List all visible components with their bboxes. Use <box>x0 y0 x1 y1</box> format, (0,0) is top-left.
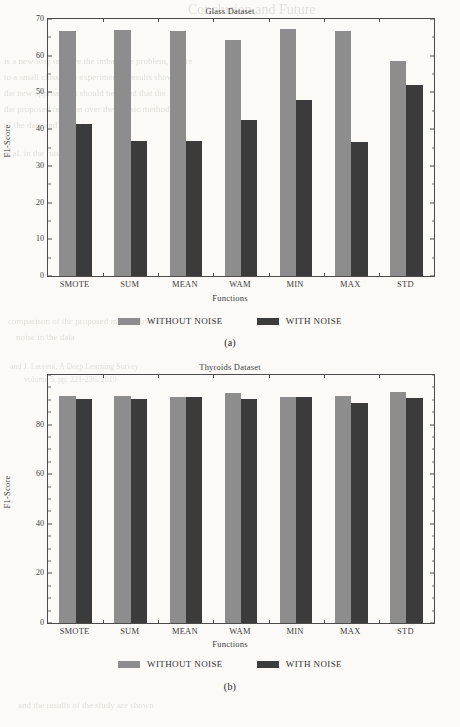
x-tick-label: WAM <box>229 626 250 636</box>
y-tick-mark <box>48 19 52 20</box>
x-tick-mark <box>103 375 104 378</box>
figure-caption-a: (a) <box>0 337 460 348</box>
y-tick-mark-minor <box>48 548 51 549</box>
x-tick-mark <box>269 19 270 22</box>
y-tick-mark-minor <box>48 220 51 221</box>
bar <box>390 392 406 623</box>
bar <box>170 397 186 623</box>
y-tick-mark <box>48 474 52 475</box>
y-tick-label: 40 <box>36 124 44 133</box>
y-tick-mark-minor <box>48 184 51 185</box>
y-tick-mark-minor <box>48 461 51 462</box>
bar <box>76 124 92 276</box>
y-tick-mark-minor <box>48 536 51 537</box>
y-tick-mark <box>430 474 434 475</box>
bar <box>296 100 312 276</box>
y-tick-mark-minor <box>432 610 435 611</box>
bar <box>225 393 241 623</box>
x-tick-label: MEAN <box>172 279 198 289</box>
bar <box>390 61 406 276</box>
bar <box>335 396 351 623</box>
bar <box>335 31 351 276</box>
y-tick-mark-minor <box>432 147 435 148</box>
x-tick-label: STD <box>397 279 414 289</box>
y-tick-mark-minor <box>432 548 435 549</box>
x-tick-mark <box>269 273 270 276</box>
y-tick-mark-minor <box>432 486 435 487</box>
x-tick-label: SMOTE <box>60 626 90 636</box>
bleed-text: and the results of the study are shown <box>18 700 154 710</box>
y-axis-label-a: F1-Score <box>2 125 12 158</box>
plot-area-a: F1-Score 010203040506070 SMOTESUMMEANWAM… <box>0 18 460 280</box>
y-tick-mark-minor <box>48 486 51 487</box>
legend-label-with-noise-a: WITH NOISE <box>286 316 342 326</box>
y-tick-mark <box>48 623 52 624</box>
figure-glass-dataset: Glass Dataset F1-Score 010203040506070 S… <box>0 6 460 348</box>
bar <box>59 31 75 276</box>
y-tick-mark-minor <box>432 257 435 258</box>
bar <box>225 40 241 276</box>
legend-entry-with-noise-a: WITH NOISE <box>257 316 342 326</box>
y-tick-mark-minor <box>48 598 51 599</box>
y-tick-mark-minor <box>48 412 51 413</box>
y-tick-mark <box>430 19 434 20</box>
bar <box>280 29 296 276</box>
y-tick-mark-minor <box>432 375 435 376</box>
legend-a: WITHOUT NOISE WITH NOISE <box>0 316 460 326</box>
y-tick-mark-minor <box>432 220 435 221</box>
x-tick-mark <box>213 375 214 378</box>
x-tick-mark <box>213 19 214 22</box>
bar <box>280 397 296 623</box>
y-tick-mark <box>430 276 434 277</box>
y-tick-mark <box>430 165 434 166</box>
y-tick-mark <box>430 523 434 524</box>
y-tick-label: 20 <box>36 568 44 577</box>
x-tick-label: MIN <box>287 279 304 289</box>
x-tick-mark <box>324 375 325 378</box>
y-tick-mark-minor <box>48 585 51 586</box>
x-tick-label: MIN <box>287 626 304 636</box>
y-tick-mark-minor <box>48 561 51 562</box>
y-tick-mark-minor <box>48 610 51 611</box>
y-tick-mark <box>430 239 434 240</box>
y-tick-mark-minor <box>432 437 435 438</box>
y-tick-mark <box>48 573 52 574</box>
plot-frame-b <box>47 374 435 624</box>
x-tick-mark <box>324 273 325 276</box>
x-tick-mark <box>158 375 159 378</box>
legend-entry-with-noise-b: WITH NOISE <box>257 659 342 669</box>
y-tick-mark-minor <box>48 37 51 38</box>
legend-entry-without-noise-a: WITHOUT NOISE <box>118 316 223 326</box>
bar <box>114 30 130 276</box>
legend-label-without-noise-b: WITHOUT NOISE <box>147 659 223 669</box>
bar <box>131 399 147 623</box>
bar <box>59 396 75 623</box>
y-tick-mark-minor <box>432 536 435 537</box>
y-tick-mark-minor <box>48 449 51 450</box>
y-tick-mark-minor <box>432 598 435 599</box>
y-tick-label: 50 <box>36 87 44 96</box>
y-tick-mark-minor <box>48 511 51 512</box>
x-tick-mark <box>379 19 380 22</box>
bar <box>131 141 147 276</box>
y-tick-mark <box>48 129 52 130</box>
x-tick-mark <box>379 375 380 378</box>
y-tick-mark-minor <box>48 257 51 258</box>
y-tick-mark-minor <box>432 461 435 462</box>
y-tick-mark <box>430 623 434 624</box>
bar-series-a <box>48 19 434 276</box>
figure-caption-b: (b) <box>0 681 460 692</box>
bar <box>406 85 422 276</box>
y-tick-mark <box>48 165 52 166</box>
y-tick-mark-minor <box>432 511 435 512</box>
y-tick-label: 60 <box>36 50 44 59</box>
y-tick-mark <box>48 239 52 240</box>
x-tick-mark <box>103 19 104 22</box>
y-tick-mark <box>48 92 52 93</box>
y-tick-mark-minor <box>48 499 51 500</box>
bar <box>241 120 257 276</box>
y-tick-mark-minor <box>48 387 51 388</box>
y-tick-mark <box>48 202 52 203</box>
y-tick-label: 30 <box>36 160 44 169</box>
y-tick-label: 0 <box>40 271 44 280</box>
